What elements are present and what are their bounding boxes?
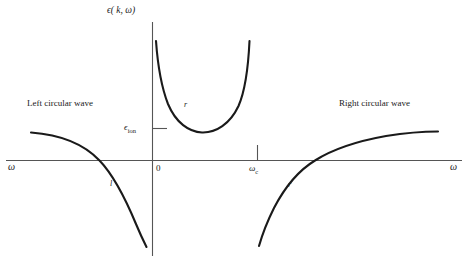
- annotation-right-circular-wave: Right circular wave: [339, 99, 410, 108]
- curve-middle-resonant-r: [156, 41, 250, 133]
- epsilon-subscript: ion: [128, 127, 136, 134]
- curve-right-circular-wave: [259, 132, 438, 247]
- y-axis-title: ϵ( k, ω): [107, 6, 135, 16]
- y-axis-tick-label-epsilon-ion: ϵion: [124, 123, 136, 134]
- omega-subscript: c: [255, 168, 258, 175]
- curve-left-circular-wave: [31, 133, 147, 248]
- x-axis-tick-label-omega-c: ωc: [249, 164, 258, 175]
- curve-label-l: l: [110, 180, 112, 188]
- physics-plot-figure: ϵ( k, ω) ϵion 0 ωc ω ω Left circular wav…: [0, 0, 469, 263]
- x-axis-right-label: ω: [450, 162, 457, 172]
- origin-label: 0: [156, 164, 161, 173]
- curve-label-r-upper: r: [184, 101, 187, 109]
- plot-canvas: [0, 0, 469, 263]
- x-axis-left-label: ω: [8, 162, 15, 172]
- curve-label-r-lower: r: [288, 181, 291, 189]
- annotation-left-circular-wave: Left circular wave: [27, 99, 93, 108]
